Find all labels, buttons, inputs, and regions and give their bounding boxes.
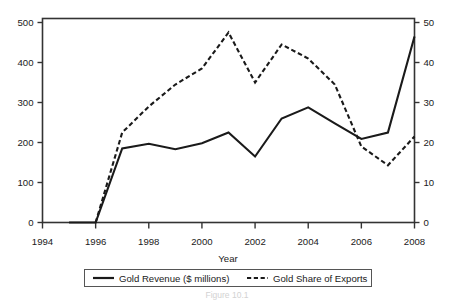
y-tick-label-right: 40 (424, 57, 435, 68)
cropped-header-text (8, 0, 248, 7)
x-tick-label: 2008 (404, 236, 425, 247)
y-tick-label-left: 0 (28, 217, 33, 228)
legend-item-gold-share: Gold Share of Exports (273, 273, 368, 284)
y-axis-left: 0100200300400500 (17, 17, 42, 228)
y-tick-label-left: 400 (17, 57, 33, 68)
x-tick-label: 2006 (351, 236, 372, 247)
line-chart: 0100200300400500 01020304050 19941996199… (0, 0, 454, 290)
x-tick-label: 2004 (298, 236, 320, 247)
x-tick-label: 1994 (32, 236, 54, 247)
y-tick-label-right: 10 (424, 177, 435, 188)
y-tick-label-right: 20 (424, 137, 435, 148)
y-tick-label-left: 300 (17, 97, 33, 108)
legend-item-gold-revenue: Gold Revenue ($ millions) (119, 273, 229, 284)
y-axis-right: 01020304050 (415, 17, 435, 228)
x-tick-label: 2002 (244, 236, 265, 247)
x-tick-label: 2000 (191, 236, 212, 247)
x-tick-label: 1998 (138, 236, 159, 247)
series-line-gold-share-of-exports (96, 33, 415, 223)
y-tick-label-right: 50 (424, 17, 435, 28)
series-layer (69, 33, 414, 223)
plot-area-border (43, 19, 415, 223)
x-axis-title: Year (218, 253, 238, 264)
chart-legend: Gold Revenue ($ millions) Gold Share of … (85, 270, 372, 287)
figure-container: 0100200300400500 01020304050 19941996199… (0, 0, 454, 302)
y-tick-label-left: 200 (17, 137, 33, 148)
y-tick-label-right: 0 (424, 217, 429, 228)
y-tick-label-left: 500 (17, 17, 33, 28)
y-tick-label-right: 30 (424, 97, 435, 108)
x-tick-label: 1996 (85, 236, 106, 247)
x-axis: 19941996199820002002200420062008 (32, 223, 425, 247)
y-tick-label-left: 100 (17, 177, 33, 188)
series-line-gold-revenue-millions (69, 37, 414, 223)
figure-caption: Figure 10.1 (0, 290, 454, 302)
